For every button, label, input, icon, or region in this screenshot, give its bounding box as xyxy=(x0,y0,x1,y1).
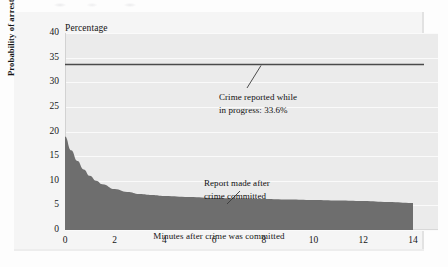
x-axis-title: Minutes after crime was committed xyxy=(14,231,424,241)
leader-line-in-progress xyxy=(247,66,261,88)
annotation-crime-in-progress: Crime reported while in progress: 33.6% xyxy=(219,91,297,116)
scan-artifact xyxy=(52,2,160,9)
annotation-report-after: Report made after crime committed xyxy=(204,177,270,202)
chart-card: Percentage Probability of arrest 0510152… xyxy=(14,12,424,251)
chart-screenshot: Percentage Probability of arrest 0510152… xyxy=(0,0,448,267)
annotation-overlay xyxy=(14,12,424,251)
